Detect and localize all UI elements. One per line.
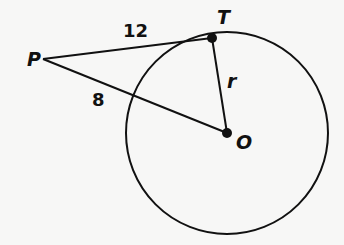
label-pa-length: 8	[92, 89, 105, 110]
label-radius: r	[227, 70, 238, 92]
label-t: T	[217, 6, 232, 28]
geometry-diagram: P T O 12 8 r	[0, 0, 344, 245]
point-o	[222, 128, 232, 138]
segment-po	[43, 59, 227, 133]
segment-pt	[43, 38, 212, 59]
label-pt-length: 12	[123, 20, 148, 41]
label-p: P	[27, 48, 41, 70]
label-o: O	[236, 131, 252, 153]
point-t	[207, 33, 217, 43]
segment-to-radius	[212, 38, 227, 133]
